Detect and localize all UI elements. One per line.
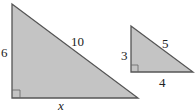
- small-hypotenuse-label: 5: [162, 36, 169, 51]
- large-triangle: 6 10 x: [1, 4, 138, 110]
- small-horizontal-leg-label: 4: [159, 75, 166, 90]
- large-hypotenuse-label: 10: [71, 34, 84, 49]
- large-triangle-shape: [12, 4, 138, 98]
- large-vertical-leg-label: 6: [1, 45, 8, 60]
- small-vertical-leg-label: 3: [121, 48, 128, 63]
- small-triangle: 3 5 4: [121, 26, 193, 90]
- large-horizontal-leg-label: x: [57, 98, 64, 110]
- similar-triangles-diagram: 6 10 x 3 5 4: [0, 0, 196, 110]
